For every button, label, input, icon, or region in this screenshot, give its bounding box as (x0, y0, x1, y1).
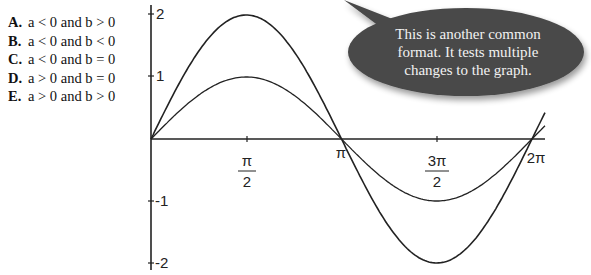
y-tick-2: 2 (156, 5, 164, 22)
x-tick-2pi: 2π (527, 149, 546, 166)
x-tick-3pi-half-den: 2 (433, 173, 441, 190)
y-tick-neg1: -1 (155, 192, 168, 209)
callout-line-1: This is another common (395, 26, 541, 42)
callout-line-3: changes to the graph. (404, 62, 531, 78)
y-tick-1: 1 (156, 67, 164, 84)
x-tick-pi-half-den: 2 (243, 173, 251, 190)
callout-line-2: format. It tests multiple (398, 44, 539, 60)
x-tick-3pi-half-num: 3π (428, 152, 447, 169)
y-tick-neg2: -2 (155, 254, 168, 271)
x-tick-pi-half-num: π (242, 152, 252, 169)
sine-graph: 2 1 -1 -2 π 2 π 3π 2 2π This is another … (0, 0, 591, 275)
